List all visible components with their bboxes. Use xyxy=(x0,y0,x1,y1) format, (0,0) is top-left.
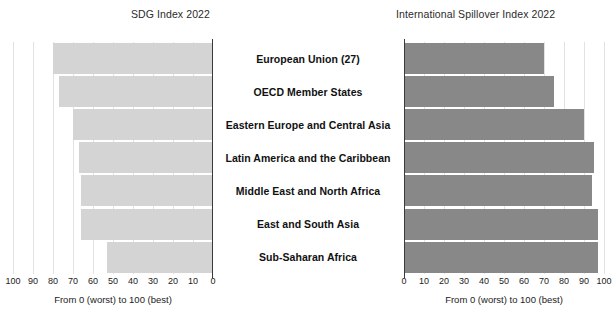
bar xyxy=(79,142,213,173)
category-label: East and South Asia xyxy=(226,208,390,241)
bar-row xyxy=(404,42,604,75)
left-chart-title: SDG Index 2022 xyxy=(131,8,210,20)
bar-row xyxy=(13,174,213,207)
category-label: Eastern Europe and Central Asia xyxy=(226,108,390,141)
right-zero-axis xyxy=(404,39,405,278)
bar xyxy=(404,175,592,206)
bar xyxy=(404,76,554,107)
category-label: Latin America and the Caribbean xyxy=(226,141,390,174)
bar-row xyxy=(13,75,213,108)
axis-tick-label: 80 xyxy=(559,276,569,286)
bar-row xyxy=(404,108,604,141)
right-axis-caption: From 0 (worst) to 100 (best) xyxy=(404,294,604,305)
bar xyxy=(81,175,213,206)
bar-row xyxy=(13,141,213,174)
bar xyxy=(53,43,213,74)
axis-tick-label: 50 xyxy=(108,276,118,286)
bar xyxy=(59,76,213,107)
left-axis-caption: From 0 (worst) to 100 (best) xyxy=(13,294,213,305)
category-label: OECD Member States xyxy=(226,75,390,108)
bar xyxy=(81,209,213,240)
axis-tick-label: 100 xyxy=(5,276,20,286)
axis-tick-label: 90 xyxy=(28,276,38,286)
right-axis-ticks: 0102030405060708090100 xyxy=(404,276,604,290)
axis-tick-label: 30 xyxy=(459,276,469,286)
category-label-column: European Union (27)OECD Member StatesEas… xyxy=(226,0,390,330)
right-bar-group xyxy=(404,42,604,274)
bar xyxy=(404,43,544,74)
right-plot-area xyxy=(404,42,604,274)
axis-tick-label: 0 xyxy=(401,276,406,286)
axis-tick-label: 80 xyxy=(48,276,58,286)
axis-tick-label: 70 xyxy=(68,276,78,286)
bar-row xyxy=(13,208,213,241)
axis-tick-label: 90 xyxy=(579,276,589,286)
bar-row xyxy=(13,241,213,274)
category-list: European Union (27)OECD Member StatesEas… xyxy=(226,42,390,274)
bar xyxy=(404,109,584,140)
bar-row xyxy=(404,208,604,241)
axis-tick-label: 10 xyxy=(419,276,429,286)
bar xyxy=(107,242,213,273)
axis-tick-label: 70 xyxy=(539,276,549,286)
bar xyxy=(404,209,598,240)
dual-bar-chart-figure: SDG Index 2022 1009080706050403020100 Fr… xyxy=(0,0,616,330)
axis-tick-label: 40 xyxy=(128,276,138,286)
bar-row xyxy=(404,75,604,108)
left-axis-ticks: 1009080706050403020100 xyxy=(13,276,213,290)
bar-row xyxy=(404,141,604,174)
sdg-index-panel: SDG Index 2022 1009080706050403020100 Fr… xyxy=(0,0,226,330)
bar xyxy=(404,242,598,273)
axis-tick-label: 40 xyxy=(479,276,489,286)
bar xyxy=(404,142,594,173)
bar-row xyxy=(404,241,604,274)
axis-tick-label: 20 xyxy=(439,276,449,286)
axis-tick-label: 20 xyxy=(168,276,178,286)
bar xyxy=(73,109,213,140)
axis-tick-label: 10 xyxy=(188,276,198,286)
axis-tick-label: 60 xyxy=(519,276,529,286)
bar-row xyxy=(13,108,213,141)
left-plot-area xyxy=(13,42,213,274)
right-chart-title: International Spillover Index 2022 xyxy=(396,8,555,20)
left-bar-group xyxy=(13,42,213,274)
axis-tick-label: 50 xyxy=(499,276,509,286)
category-label: Middle East and North Africa xyxy=(226,174,390,207)
bar-row xyxy=(13,42,213,75)
category-label: European Union (27) xyxy=(226,42,390,75)
axis-tick-label: 30 xyxy=(148,276,158,286)
axis-tick-label: 0 xyxy=(210,276,215,286)
axis-tick-label: 60 xyxy=(88,276,98,286)
left-zero-axis xyxy=(212,39,213,278)
spillover-index-panel: International Spillover Index 2022 01020… xyxy=(390,0,616,330)
category-label: Sub-Saharan Africa xyxy=(226,241,390,274)
gridline xyxy=(604,42,605,274)
axis-tick-label: 100 xyxy=(596,276,611,286)
bar-row xyxy=(404,174,604,207)
